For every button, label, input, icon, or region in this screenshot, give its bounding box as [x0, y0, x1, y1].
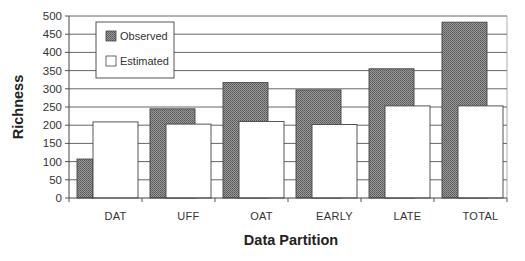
- bar-estimated-oat: [239, 122, 284, 198]
- y-tick-label: 350: [43, 65, 62, 77]
- y-tick-label: 450: [43, 28, 62, 40]
- bar-estimated-total: [458, 106, 503, 198]
- bar-estimated-early: [312, 124, 357, 198]
- bar-estimated-dat: [93, 122, 138, 198]
- legend-swatch-estimated: [106, 56, 116, 66]
- y-tick-label: 200: [43, 119, 62, 131]
- y-tick-label: 400: [43, 46, 62, 58]
- legend-label-observed: Observed: [120, 30, 168, 42]
- x-tick-label: DAT: [104, 210, 126, 222]
- x-axis-title: Data Partition: [244, 232, 338, 248]
- y-axis-title: Richness: [10, 75, 26, 139]
- bar-estimated-late: [385, 106, 430, 198]
- legend: Observed Estimated: [96, 22, 174, 78]
- y-axis: 050100150200250300350400450500: [43, 10, 69, 204]
- y-tick-label: 250: [43, 101, 62, 113]
- y-tick-label: 50: [49, 174, 62, 186]
- y-tick-label: 0: [56, 192, 62, 204]
- x-tick-label: UFF: [177, 210, 199, 222]
- y-tick-label: 300: [43, 83, 62, 95]
- bar-observed-dat: [77, 159, 93, 198]
- x-tick-label: OAT: [250, 210, 273, 222]
- bar-chart: 050100150200250300350400450500 DATUFFOAT…: [0, 0, 525, 261]
- y-tick-label: 150: [43, 137, 62, 149]
- y-tick-label: 500: [43, 10, 62, 22]
- x-tick-label: LATE: [394, 210, 422, 222]
- x-tick-label: TOTAL: [463, 210, 499, 222]
- bar-estimated-uff: [166, 124, 211, 198]
- legend-label-estimated: Estimated: [120, 55, 169, 67]
- y-tick-label: 100: [43, 156, 62, 168]
- x-tick-label: EARLY: [316, 210, 353, 222]
- legend-swatch-observed: [106, 31, 116, 41]
